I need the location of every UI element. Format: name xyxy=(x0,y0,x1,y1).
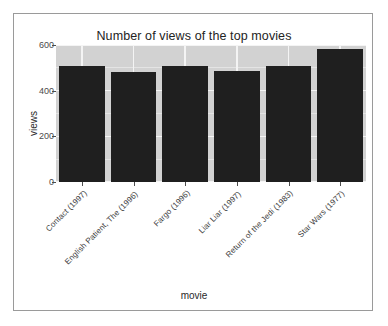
y-tick-label-200: 200 xyxy=(14,130,54,142)
x-tick-mark-1 xyxy=(134,182,135,186)
bar xyxy=(317,49,362,182)
x-tick-mark-0 xyxy=(82,182,83,186)
y-tick-label-400: 400 xyxy=(14,85,54,97)
x-tick-mark-2 xyxy=(185,182,186,186)
bar xyxy=(266,66,311,182)
x-tick-mark-5 xyxy=(340,182,341,186)
bar xyxy=(59,66,104,182)
bar-chart: Number of views of the top movies views … xyxy=(14,14,374,312)
x-tick-label: Liar Liar (1997) xyxy=(197,189,243,235)
bar xyxy=(162,66,207,182)
gridline-y-600 xyxy=(56,45,366,46)
x-axis: Contact (1997)English Patient, The (1996… xyxy=(56,182,366,292)
y-tick-label-600: 600 xyxy=(14,39,54,51)
bar xyxy=(214,71,259,182)
chart-title: Number of views of the top movies xyxy=(14,29,374,43)
y-tick-label-0: 0 xyxy=(14,176,54,188)
x-tick-label: Fargo (1996) xyxy=(152,189,192,229)
x-tick-mark-3 xyxy=(237,182,238,186)
x-tick-mark-4 xyxy=(289,182,290,186)
bar xyxy=(111,72,156,182)
figure-frame: Number of views of the top movies views … xyxy=(13,13,373,311)
y-axis: 0200400600 xyxy=(14,14,54,312)
plot-panel xyxy=(56,45,366,182)
x-tick-label: Star Wars (1977) xyxy=(296,189,346,239)
